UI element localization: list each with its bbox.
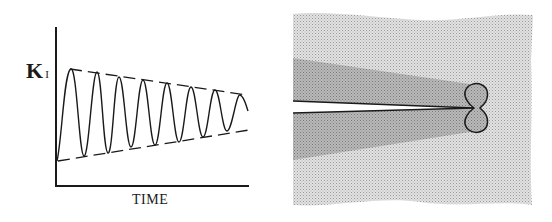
- y-axis-label-main: K: [26, 58, 43, 83]
- x-axis-label: TIME: [132, 192, 168, 208]
- ki-oscillation-curve: [57, 69, 248, 161]
- y-axis-label-subscript: I: [45, 68, 49, 80]
- figure-canvas: [0, 0, 552, 222]
- crack-tip-diagram: [293, 13, 533, 206]
- y-axis-label: KI: [26, 58, 49, 84]
- ki-time-plot: [55, 27, 249, 186]
